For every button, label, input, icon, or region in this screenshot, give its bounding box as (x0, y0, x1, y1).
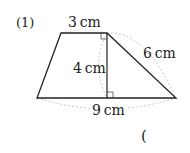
problem-number: (1) (16, 16, 34, 29)
answer-paren: ( (141, 129, 147, 144)
bottom-length-label: 9 cm (92, 103, 125, 117)
height-length-label: 4 cm (73, 61, 106, 75)
top-length-label: 3 cm (68, 15, 101, 29)
slant-length-label: 6 cm (143, 46, 176, 60)
right-angle-mark-bottom (107, 92, 113, 98)
